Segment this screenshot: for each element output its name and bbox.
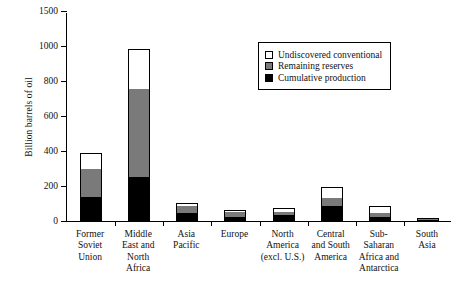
stacked-bar[interactable] <box>417 218 439 221</box>
legend-item[interactable]: Cumulative production <box>265 73 382 83</box>
stacked-bar[interactable] <box>176 203 198 221</box>
x-tick-mark <box>308 221 309 226</box>
legend-item[interactable]: Remaining reserves <box>265 61 382 71</box>
segment-cumulative-production <box>273 215 295 221</box>
stacked-bar[interactable] <box>224 210 246 221</box>
bar-slot <box>128 49 150 221</box>
segment-remaining-reserves <box>176 206 198 213</box>
segment-remaining-reserves <box>80 169 102 197</box>
stacked-bar[interactable] <box>321 187 343 221</box>
x-tick-label: Europe <box>210 229 258 240</box>
legend-item-label: Remaining reserves <box>278 61 353 71</box>
bar-slot <box>224 210 246 221</box>
segment-remaining-reserves <box>128 89 150 177</box>
gray-swatch-icon <box>265 62 273 70</box>
x-tick-label: Former Soviet Union <box>66 229 114 263</box>
y-tick-label: 400 <box>44 146 58 156</box>
legend-item-label: Cumulative production <box>278 73 366 83</box>
segment-cumulative-production <box>417 220 439 221</box>
segment-undiscovered-conventional <box>321 187 343 198</box>
y-tick-label: 1500 <box>39 6 58 16</box>
x-tick-mark <box>404 221 405 226</box>
bar-slot <box>176 203 198 221</box>
bar-slot <box>417 218 439 221</box>
segment-cumulative-production <box>80 197 102 221</box>
segment-remaining-reserves <box>321 198 343 206</box>
x-tick-label: Asia Pacific <box>162 229 210 252</box>
segment-undiscovered-conventional <box>80 153 102 169</box>
x-tick-label: Middle East and North Africa <box>114 229 162 275</box>
y-tick-label: 0 <box>53 216 58 226</box>
segment-undiscovered-conventional <box>369 206 391 213</box>
legend-item[interactable]: Undiscovered conventional <box>265 50 382 60</box>
segment-cumulative-production <box>224 217 246 221</box>
stacked-bar[interactable] <box>128 49 150 221</box>
black-swatch-icon <box>265 74 273 82</box>
y-axis-title: Billion barrels of oil <box>24 32 34 202</box>
stacked-bar[interactable] <box>80 153 102 221</box>
x-tick-mark <box>163 221 164 226</box>
segment-undiscovered-conventional <box>128 49 150 89</box>
bar-slot <box>80 153 102 221</box>
x-tick-mark <box>115 221 116 226</box>
x-tick-label: Sub- Saharan Africa and Antarctica <box>355 229 403 275</box>
oil-resources-bar-chart: Billion barrels of oil 02004006008001000… <box>0 0 459 291</box>
bar-slot <box>273 208 295 221</box>
white-swatch-icon <box>265 51 273 59</box>
x-axis-labels: Former Soviet UnionMiddle East and North… <box>66 229 451 291</box>
x-tick-label: Central and South America <box>307 229 355 263</box>
segment-cumulative-production <box>128 177 150 221</box>
x-tick-mark <box>211 221 212 226</box>
y-tick-label: 1000 <box>39 41 58 51</box>
x-tick-mark <box>260 221 261 226</box>
bar-slot <box>321 187 343 221</box>
stacked-bar[interactable] <box>273 208 295 221</box>
y-tick-mark <box>61 221 67 222</box>
x-tick-mark <box>356 221 357 226</box>
stacked-bar[interactable] <box>369 206 391 221</box>
y-tick-mark <box>61 11 67 12</box>
x-tick-label: North America (excl. U.S.) <box>259 229 307 263</box>
x-tick-label: South Asia <box>403 229 451 252</box>
y-tick-label: 800 <box>44 76 58 86</box>
segment-cumulative-production <box>369 217 391 221</box>
y-tick-label: 200 <box>44 181 58 191</box>
y-tick-label: 600 <box>44 111 58 121</box>
chart-legend: Undiscovered conventionalRemaining reser… <box>258 42 391 90</box>
segment-cumulative-production <box>176 213 198 221</box>
bar-slot <box>369 206 391 221</box>
legend-item-label: Undiscovered conventional <box>278 50 382 60</box>
segment-cumulative-production <box>321 206 343 221</box>
